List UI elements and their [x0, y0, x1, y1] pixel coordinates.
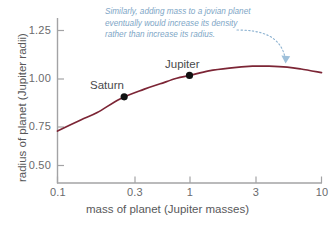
x-tick-label-3: 3	[236, 186, 276, 198]
annotation-line-1: Similarly, adding mass to a jovian plane…	[105, 6, 255, 18]
annotation-text: Similarly, adding mass to a jovian plane…	[105, 6, 255, 41]
data-point-label-saturn: Saturn	[90, 79, 124, 91]
x-axis-title: mass of planet (Jupiter masses)	[0, 203, 335, 215]
x-tick-label-0.3: 0.3	[115, 186, 155, 198]
annotation-line-2: eventually would increase its density	[105, 18, 255, 30]
data-point-saturn	[121, 93, 128, 100]
x-tick-label-0.1: 0.1	[38, 186, 78, 198]
x-tick-marks	[58, 177, 322, 184]
y-tick-marks	[58, 31, 65, 166]
x-tick-label-1: 1	[170, 186, 210, 198]
annotation-line-3: rather than increase its radius.	[105, 29, 255, 41]
data-point-label-jupiter: Jupiter	[165, 58, 200, 70]
data-point-jupiter	[186, 72, 193, 79]
chart-figure: 1.25 1.00 0.75 0.50 0.1 0.3 1 3 10 mass …	[0, 0, 335, 227]
y-axis-title: radius of planet (Jupiter radii)	[16, 33, 28, 182]
annotation-arrow-head	[281, 56, 290, 64]
x-tick-label-10: 10	[302, 186, 335, 198]
